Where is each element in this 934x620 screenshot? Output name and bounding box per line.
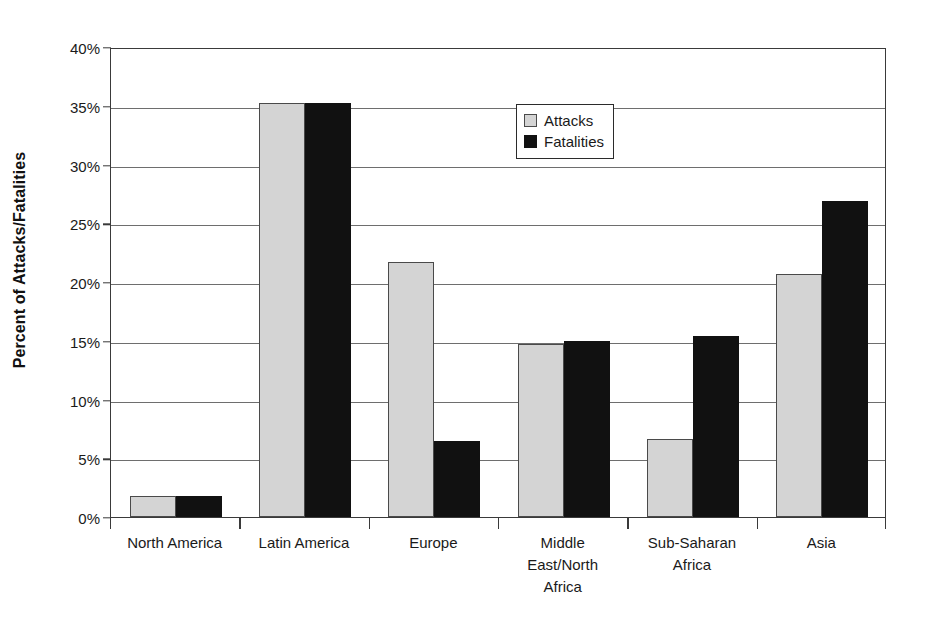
x-category-label-line: Middle (498, 532, 627, 554)
y-tick-label: 30% (70, 157, 100, 174)
bar-attacks (776, 274, 822, 517)
legend-item-fatalities[interactable]: Fatalities (524, 131, 604, 152)
x-category-label-line: Europe (369, 532, 498, 554)
x-tick-mark (885, 518, 886, 529)
x-tick-mark (239, 518, 240, 529)
x-axis-category-labels: North AmericaLatin AmericaEuropeMiddleEa… (110, 532, 886, 617)
bar-attacks (388, 262, 434, 517)
x-category-label-line: North America (110, 532, 239, 554)
y-tick-label: 10% (70, 392, 100, 409)
bars-layer (111, 49, 885, 517)
y-tick-label: 35% (70, 98, 100, 115)
bar-fatalities (176, 496, 222, 517)
x-category-label: Sub-SaharanAfrica (627, 532, 756, 576)
bar-group (111, 49, 240, 517)
y-tick-label: 40% (70, 40, 100, 57)
x-axis-tick-marks (110, 518, 886, 530)
bar-group (758, 49, 887, 517)
bar-attacks (647, 439, 693, 517)
bar-fatalities (434, 441, 480, 517)
x-category-label: North America (110, 532, 239, 554)
bar-fatalities (564, 341, 610, 517)
y-axis-tick-labels: 40%35%30%25%20%15%10%5%0% (40, 30, 106, 530)
x-category-label-line: Sub-Saharan (627, 532, 756, 554)
bar-chart: Percent of Attacks/Fatalities 40%35%30%2… (0, 0, 934, 620)
legend-swatch-fatalities-icon (524, 135, 537, 148)
bar-attacks (518, 344, 564, 517)
y-axis-title-text: Percent of Attacks/Fatalities (11, 152, 29, 369)
x-category-label-line: Africa (627, 554, 756, 576)
legend-swatch-attacks-icon (524, 114, 537, 127)
plot-area (110, 48, 886, 518)
x-tick-mark (627, 518, 628, 529)
x-category-label: Asia (757, 532, 886, 554)
x-category-label: Latin America (239, 532, 368, 554)
x-category-label-line: East/North (498, 554, 627, 576)
bar-attacks (130, 496, 176, 517)
x-category-label: MiddleEast/NorthAfrica (498, 532, 627, 598)
bar-attacks (259, 103, 305, 517)
bar-group (628, 49, 757, 517)
y-tick-label: 15% (70, 333, 100, 350)
x-category-label-line: Africa (498, 576, 627, 598)
bar-fatalities (822, 201, 868, 517)
bar-fatalities (693, 336, 739, 517)
x-tick-mark (757, 518, 758, 529)
y-tick-label: 0% (78, 510, 100, 527)
x-category-label: Europe (369, 532, 498, 554)
chart-legend: AttacksFatalities (516, 104, 614, 159)
x-tick-mark (498, 518, 499, 529)
bar-group (240, 49, 369, 517)
bar-group (370, 49, 499, 517)
legend-label: Attacks (544, 112, 593, 129)
x-category-label-line: Asia (757, 532, 886, 554)
y-axis-title: Percent of Attacks/Fatalities (0, 0, 40, 520)
y-tick-label: 25% (70, 216, 100, 233)
legend-item-attacks[interactable]: Attacks (524, 110, 604, 131)
x-tick-mark (110, 518, 111, 529)
bar-fatalities (305, 103, 351, 517)
legend-label: Fatalities (544, 133, 604, 150)
x-tick-mark (369, 518, 370, 529)
y-tick-label: 20% (70, 275, 100, 292)
x-category-label-line: Latin America (239, 532, 368, 554)
y-tick-label: 5% (78, 451, 100, 468)
